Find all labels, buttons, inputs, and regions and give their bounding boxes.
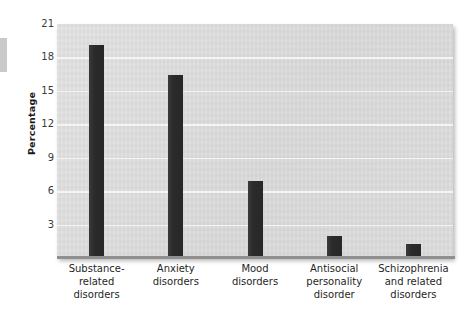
bar[interactable] (327, 236, 342, 258)
y-axis-tick-label: 18 (34, 52, 54, 62)
y-axis-tick-label: 12 (34, 119, 54, 129)
chart-screenshot: Percentage 21181512963 Substance-related… (0, 0, 476, 317)
gridline (57, 124, 453, 126)
gridline (57, 57, 453, 59)
y-axis-tick-label: 15 (34, 86, 54, 96)
x-axis-category-label: Schizophreniaand relateddisorders (367, 262, 460, 301)
gridline (57, 158, 453, 160)
bar[interactable] (89, 45, 104, 258)
plot-area (57, 24, 453, 258)
y-axis-tick-label: 9 (34, 153, 54, 163)
y-axis-tick-label: 3 (34, 220, 54, 230)
x-axis-label-line: and related (367, 275, 460, 288)
bar[interactable] (168, 75, 183, 258)
y-axis-tick-label: 21 (34, 19, 54, 29)
x-axis-label-line: disorders (367, 288, 460, 301)
gridline (57, 91, 453, 93)
x-axis-line (57, 256, 455, 259)
page-edge-artifact (0, 38, 7, 72)
y-axis-tick-label: 6 (34, 186, 54, 196)
bar[interactable] (248, 181, 263, 258)
x-axis-label-line: Schizophrenia (367, 262, 460, 275)
x-axis-label-line: disorders (50, 288, 143, 301)
x-axis-category-labels: Substance-relateddisordersAnxietydisorde… (57, 262, 455, 314)
